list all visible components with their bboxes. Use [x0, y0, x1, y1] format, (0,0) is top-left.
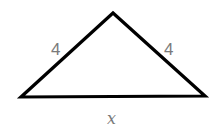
- base-label: x: [107, 109, 116, 128]
- right-side-label: 4: [164, 40, 173, 59]
- left-side-label: 4: [51, 40, 60, 59]
- triangle: [21, 13, 205, 97]
- triangle-diagram: 4 4 x: [0, 0, 214, 132]
